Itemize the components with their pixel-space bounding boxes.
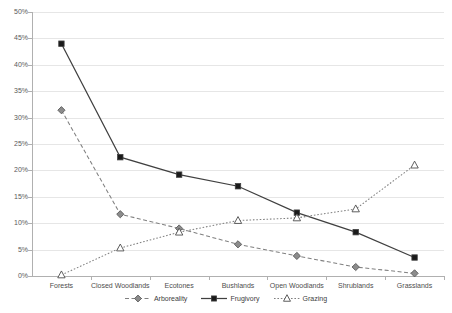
series-line-arboreality [61,110,414,273]
data-point-grazing-6 [411,161,418,168]
series-frugivory [59,41,418,260]
series-grazing [58,161,419,278]
data-point-arboreality-6 [411,270,418,277]
data-series-layer [0,0,452,313]
series-line-frugivory [61,44,414,258]
data-point-arboreality-4 [293,252,300,259]
chart-container: 0%5%10%15%20%25%30%35%40%45%50% ForestsC… [0,0,452,313]
data-point-frugivory-0 [59,41,64,46]
data-point-arboreality-0 [58,107,65,114]
legend-marker-triangle-icon [274,294,300,303]
legend-item-grazing[interactable]: Grazing [274,294,328,303]
legend-marker-diamond-icon [125,294,151,303]
data-point-arboreality-3 [234,241,241,248]
data-point-arboreality-1 [117,211,124,218]
data-point-grazing-0 [58,271,65,278]
data-point-frugivory-3 [235,184,240,189]
legend-item-frugivory[interactable]: Frugivory [201,294,259,303]
data-point-arboreality-5 [352,263,359,270]
data-point-frugivory-5 [353,229,358,234]
data-point-frugivory-1 [118,155,123,160]
legend-label-grazing: Grazing [303,295,328,303]
data-point-grazing-1 [117,244,124,251]
data-point-grazing-5 [352,205,359,212]
data-point-frugivory-2 [176,172,181,177]
chart-legend: ArborealityFrugivoryGrazing [0,294,452,303]
legend-item-arboreality[interactable]: Arboreality [125,294,187,303]
legend-marker-square-icon [201,294,227,303]
legend-label-frugivory: Frugivory [230,295,259,303]
data-point-frugivory-6 [412,255,417,260]
legend-label-arboreality: Arboreality [154,295,187,303]
